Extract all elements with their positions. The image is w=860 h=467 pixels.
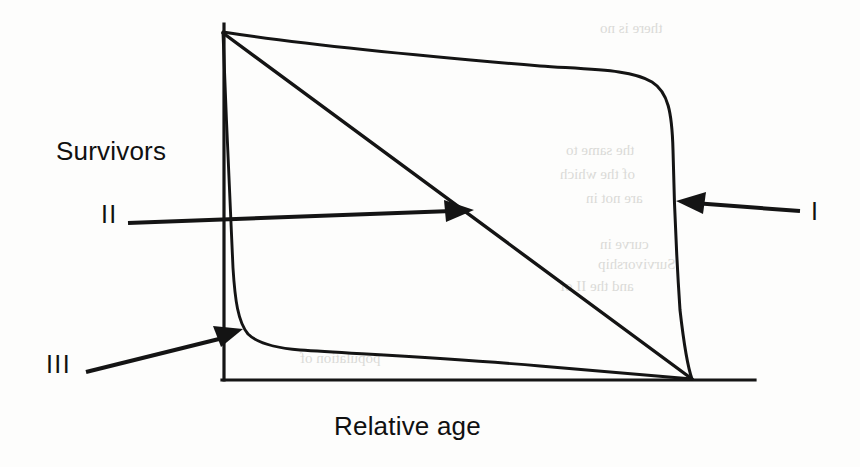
annotation-arrow-type-i (676, 192, 800, 214)
y-axis-label: Survivors (56, 136, 166, 167)
curve-label-type-iii: III (46, 350, 71, 379)
arrow-head-type-i (676, 192, 706, 214)
annotation-arrow-type-iii (86, 326, 243, 372)
figure-canvas (0, 0, 860, 467)
curve-label-type-ii: II (101, 200, 118, 229)
curve-label-type-i: I (811, 197, 819, 226)
survivorship-curve-figure: there is no the same to of the which are… (0, 0, 860, 467)
arrow-head-type-iii (213, 326, 243, 347)
x-axis-label: Relative age (334, 411, 481, 442)
annotation-arrow-type-ii (128, 200, 474, 223)
arrow-head-type-ii (444, 200, 474, 222)
